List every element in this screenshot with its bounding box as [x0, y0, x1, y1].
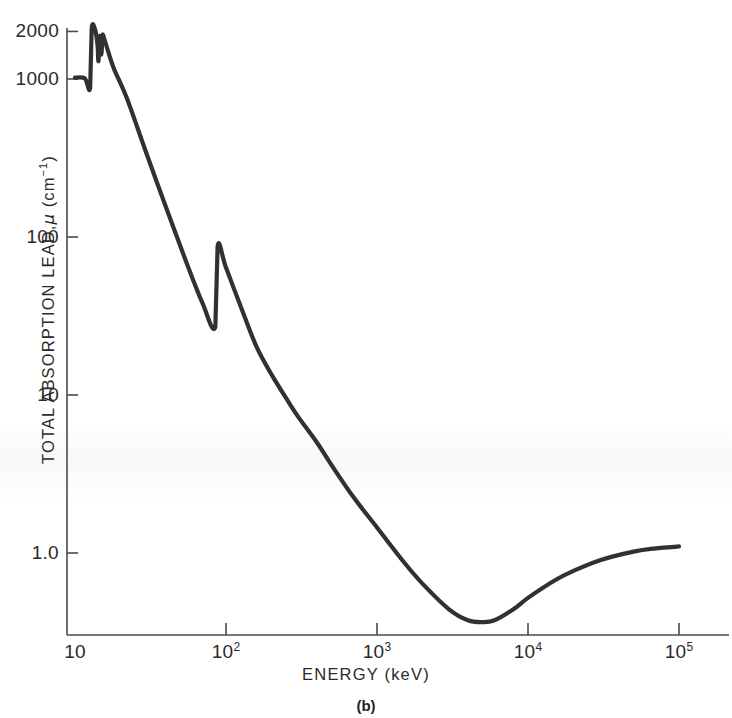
y-axis-title: TOTAL ABSORPTION LEAD,μ (cm−1) — [39, 120, 58, 500]
x-tick-label-1000: 103 — [337, 641, 417, 663]
mu-symbol: μ — [39, 213, 58, 225]
figure-caption: (b) — [0, 697, 732, 714]
x-tick-label-100: 102 — [186, 641, 266, 663]
x-tick-label-10: 10 — [35, 641, 115, 663]
x-tick-label-100000: 105 — [639, 641, 719, 663]
x-tick-label-10000: 104 — [488, 641, 568, 663]
x-tick-marks — [226, 623, 679, 635]
figure-container: 20001000100101.0 10102103104105 TOTAL AB… — [0, 0, 732, 718]
y-axis-unit-close: ) — [39, 155, 57, 162]
y-axis-unit-exponent: −1 — [37, 162, 49, 177]
y-tick-marks — [67, 31, 78, 553]
axes-group — [67, 28, 729, 635]
x-axis-title: ENERGY (keV) — [0, 665, 732, 684]
y-tick-label-2000: 2000 — [0, 20, 59, 42]
y-axis-title-prefix: TOTAL ABSORPTION LEAD, — [39, 225, 57, 464]
y-tick-label-1000: 1000 — [0, 68, 59, 90]
data-series-group — [75, 24, 679, 622]
y-axis-unit-open: (cm — [39, 176, 57, 207]
absorption-curve — [75, 24, 679, 622]
plot-canvas — [0, 0, 732, 718]
y-tick-label-1-0: 1.0 — [0, 542, 59, 564]
